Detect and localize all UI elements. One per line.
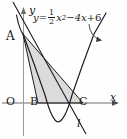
- equation-constant-term: +6: [87, 12, 102, 23]
- math-figure-parabola-triangle: y = 1 2 x 2 −4x +6 A B C O y x l: [0, 0, 127, 139]
- equation-equals: =: [39, 12, 47, 23]
- y-axis-arrowhead: [21, 7, 26, 14]
- equation-fraction: 1 2: [48, 9, 55, 27]
- y-axis-label: y: [29, 5, 35, 16]
- fraction-denominator: 2: [48, 17, 55, 26]
- x-axis-label: x: [110, 92, 116, 103]
- equation-annotation: y = 1 2 x 2 −4x +6: [33, 9, 101, 27]
- fraction-numerator: 1: [48, 9, 55, 17]
- point-label-b: B: [30, 96, 38, 107]
- point-label-a: A: [6, 30, 15, 42]
- origin-label: O: [6, 96, 15, 107]
- point-label-c: C: [79, 96, 87, 107]
- line-l-label: l: [77, 118, 81, 129]
- equation-linear-term: −4x: [66, 12, 86, 23]
- annotation-arrowhead: [96, 37, 102, 43]
